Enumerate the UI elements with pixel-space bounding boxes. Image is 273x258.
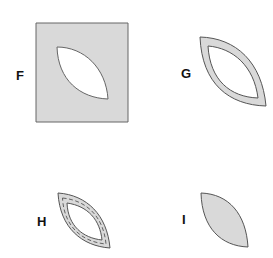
panel-f-shape <box>36 23 128 122</box>
panel-h-label: H <box>37 215 46 228</box>
panel-f-label: F <box>16 69 24 82</box>
panel-g-shape <box>200 37 266 106</box>
panel-g-label: G <box>181 67 191 80</box>
panel-i-label: I <box>182 213 186 226</box>
panel-i-shape <box>201 193 248 247</box>
panel-h-shape <box>58 193 110 248</box>
